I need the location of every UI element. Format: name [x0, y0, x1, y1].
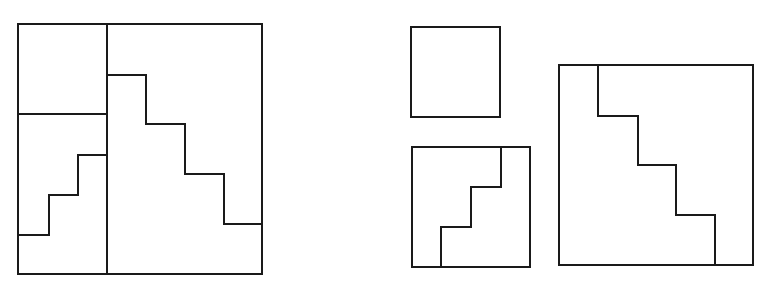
right-small-square: [411, 27, 500, 117]
left-large-staircase: [107, 75, 262, 224]
left-figure: [18, 24, 262, 274]
left-outer-square: [18, 24, 262, 274]
dissection-diagram: [0, 0, 769, 295]
right-figures: [411, 27, 753, 267]
right-middle-staircase: [441, 147, 501, 267]
left-small-staircase: [19, 155, 107, 235]
right-large-staircase: [598, 65, 715, 265]
